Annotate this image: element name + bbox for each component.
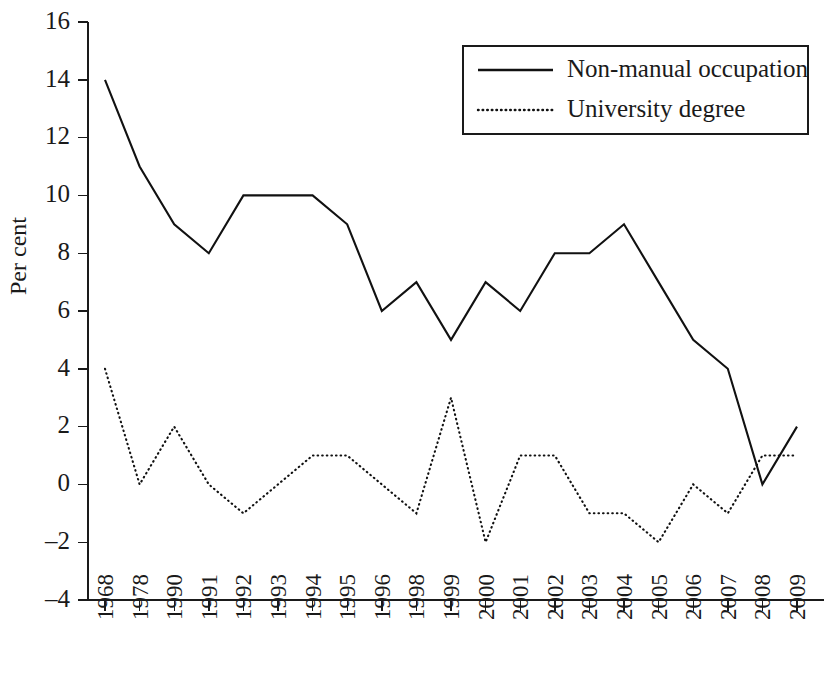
y-tick-label: 16: [45, 7, 70, 34]
series-line-dotted: [105, 369, 797, 542]
y-tick-label: 10: [45, 180, 70, 207]
y-tick-label: 14: [45, 65, 71, 92]
x-tick-label: 2000: [474, 574, 499, 620]
x-tick-label: 1978: [128, 574, 153, 620]
x-tick-label: 1999: [439, 574, 464, 620]
y-tick-label: 12: [45, 122, 70, 149]
chart-legend: Non-manual occupationUniversity degree: [463, 46, 808, 134]
y-axis-title: Per cent: [5, 217, 31, 295]
legend-label: University degree: [567, 95, 745, 122]
x-tick-label: 2007: [716, 574, 741, 620]
x-axis-ticks: 1968197819901991199219931994199519961998…: [93, 574, 810, 621]
series-line-solid: [105, 80, 797, 485]
x-tick-label: 2006: [681, 574, 706, 620]
x-tick-label: 2004: [612, 574, 637, 621]
y-tick-label: 4: [58, 354, 71, 381]
x-tick-label: 2003: [577, 574, 602, 620]
x-tick-label: 1991: [197, 574, 222, 620]
y-tick-label: –2: [44, 527, 70, 554]
x-tick-label: 1996: [370, 574, 395, 620]
x-tick-label: 1993: [266, 574, 291, 620]
x-tick-label: 2002: [543, 574, 568, 620]
data-series-group: [105, 80, 797, 542]
x-tick-label: 1998: [404, 574, 429, 620]
x-tick-label: 1968: [93, 574, 118, 620]
x-tick-label: 2001: [508, 574, 533, 620]
y-tick-label: 6: [58, 296, 71, 323]
chart-container: –4–20246810121416 1968197819901991199219…: [0, 0, 828, 679]
y-tick-label: 0: [58, 469, 71, 496]
y-tick-label: 2: [58, 411, 71, 438]
x-tick-label: 2009: [785, 574, 810, 620]
x-tick-label: 1992: [231, 574, 256, 620]
x-tick-label: 1994: [301, 574, 326, 621]
y-tick-label: 8: [58, 238, 71, 265]
x-tick-label: 2008: [750, 574, 775, 620]
legend-label: Non-manual occupation: [567, 55, 808, 82]
x-tick-label: 1995: [335, 574, 360, 620]
line-chart: –4–20246810121416 1968197819901991199219…: [0, 0, 828, 679]
x-tick-label: 1990: [162, 574, 187, 620]
x-tick-label: 2005: [647, 574, 672, 620]
y-axis-ticks: –4–20246810121416: [44, 7, 88, 612]
y-tick-label: –4: [44, 585, 71, 612]
